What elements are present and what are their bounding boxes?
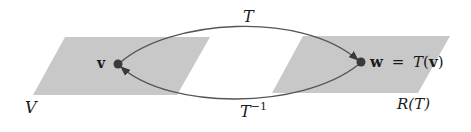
point-w-label: w = T(v) — [370, 55, 444, 70]
equals-sign: = — [392, 53, 405, 71]
inverse-map-label: T−1 — [240, 104, 267, 120]
point-w-dot — [357, 58, 366, 67]
domain-set-label: V — [25, 100, 37, 116]
inverse-map-exponent: −1 — [251, 100, 267, 113]
point-v-dot — [114, 60, 123, 69]
t-symbol: T — [413, 53, 423, 71]
close-paren: ) — [438, 53, 444, 71]
v-symbol: v — [429, 53, 438, 71]
w-symbol: w — [370, 53, 383, 71]
point-v-label: v — [97, 56, 105, 70]
inverse-map-base: T — [240, 102, 251, 121]
range-set-label: R(T) — [397, 97, 430, 112]
linear-transformation-diagram: T T−1 V R(T) v w = T(v) — [0, 0, 471, 132]
forward-map-label: T — [243, 9, 254, 25]
